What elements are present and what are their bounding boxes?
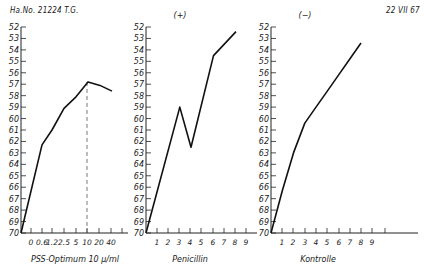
y-tick-label: 61 <box>9 126 19 135</box>
x-tick-label: 7 <box>348 238 353 247</box>
y-tick-label: 64 <box>134 160 144 169</box>
y-tick-label: 67 <box>259 195 270 204</box>
y-tick-label: 59 <box>259 103 269 112</box>
x-tick-label: 3 <box>177 238 182 247</box>
y-tick-label: 69 <box>9 218 19 227</box>
data-line <box>21 82 112 233</box>
chart-panel-3: 5253545556575859606162636465666768697012… <box>259 11 418 264</box>
y-tick-label: 70 <box>9 229 19 238</box>
y-tick-label: 57 <box>134 80 145 89</box>
y-tick-label: 62 <box>9 137 19 146</box>
y-tick-label: 63 <box>134 149 144 158</box>
y-tick-label: 53 <box>134 34 144 43</box>
x-tick-label: 0 <box>29 238 34 247</box>
y-tick-label: 61 <box>134 126 144 135</box>
y-tick-label: 70 <box>259 229 269 238</box>
y-tick-label: 59 <box>9 103 19 112</box>
y-tick-label: 54 <box>259 46 269 55</box>
x-tick-label: 5 <box>199 238 204 247</box>
y-tick-label: 57 <box>9 80 20 89</box>
y-tick-label: 67 <box>9 195 20 204</box>
y-tick-label: 53 <box>9 34 19 43</box>
y-tick-label: 56 <box>9 69 19 78</box>
y-tick-label: 69 <box>259 218 269 227</box>
x-tick-label: 7 <box>222 238 227 247</box>
x-tick-label: 5 <box>325 238 330 247</box>
x-tick-label: 5 <box>74 238 79 247</box>
x-tick-label: 40 <box>106 238 116 247</box>
y-tick-label: 58 <box>134 92 144 101</box>
y-tick-label: 54 <box>134 46 144 55</box>
y-tick-label: 64 <box>259 160 269 169</box>
y-tick-label: 60 <box>9 115 19 124</box>
y-tick-label: 62 <box>259 137 269 146</box>
data-line <box>146 32 236 233</box>
y-tick-label: 69 <box>134 218 144 227</box>
x-tick-label: 6 <box>337 238 342 247</box>
y-tick-label: 57 <box>259 80 270 89</box>
x-tick-label: 9 <box>370 238 375 247</box>
y-tick-label: 63 <box>9 149 19 158</box>
y-tick-label: 65 <box>9 172 19 181</box>
chart-panel-1: 5253545556575859606162636465666768697000… <box>9 23 128 264</box>
y-tick-label: 61 <box>259 126 269 135</box>
data-line <box>271 43 361 233</box>
y-tick-label: 66 <box>134 183 144 192</box>
x-tick-label: 8 <box>233 238 238 247</box>
x-axis-label: PSS-Optimum 10 μ/ml <box>31 255 120 264</box>
x-tick-label: 3 <box>303 238 308 247</box>
y-tick-label: 68 <box>134 206 144 215</box>
y-tick-label: 58 <box>259 92 269 101</box>
y-tick-label: 62 <box>134 137 144 146</box>
y-tick-label: 56 <box>259 69 269 78</box>
x-tick-label: 1.2 <box>46 238 58 247</box>
y-tick-label: 52 <box>259 23 269 32</box>
y-tick-label: 65 <box>259 172 269 181</box>
y-tick-label: 55 <box>9 57 19 66</box>
y-tick-label: 59 <box>134 103 144 112</box>
x-axis-label: Penicillin <box>172 255 207 264</box>
y-tick-label: 66 <box>259 183 269 192</box>
x-tick-label: 20 <box>94 238 104 247</box>
y-tick-label: 55 <box>259 57 269 66</box>
chart-area: 5253545556575859606162636465666768697000… <box>0 0 424 270</box>
x-tick-label: 2.5 <box>58 238 70 247</box>
x-tick-label: 1 <box>155 238 160 247</box>
y-tick-label: 60 <box>134 115 144 124</box>
x-tick-label: 6 <box>211 238 216 247</box>
y-tick-label: 55 <box>134 57 144 66</box>
y-tick-label: 64 <box>9 160 19 169</box>
y-tick-label: 68 <box>9 206 19 215</box>
x-tick-label: 4 <box>314 238 319 247</box>
y-tick-label: 60 <box>259 115 269 124</box>
y-tick-label: 56 <box>134 69 144 78</box>
y-tick-label: 58 <box>9 92 19 101</box>
x-tick-label: 1 <box>280 238 285 247</box>
x-tick-label: 10 <box>82 238 92 247</box>
x-tick-label: 2 <box>166 238 171 247</box>
y-tick-label: 53 <box>259 34 269 43</box>
panel-label: (−) <box>299 11 312 20</box>
y-tick-label: 52 <box>9 23 19 32</box>
y-tick-label: 70 <box>134 229 144 238</box>
y-tick-label: 66 <box>9 183 19 192</box>
x-axis-label: Kontrolle <box>300 255 336 264</box>
y-tick-label: 65 <box>134 172 144 181</box>
y-tick-label: 67 <box>134 195 145 204</box>
x-tick-label: 2 <box>291 238 296 247</box>
x-tick-label: 4 <box>188 238 193 247</box>
chart-panel-2: 5253545556575859606162636465666768697012… <box>134 11 257 264</box>
x-tick-label: 8 <box>359 238 364 247</box>
y-tick-label: 52 <box>134 23 144 32</box>
panel-label: (+) <box>174 11 187 20</box>
y-tick-label: 68 <box>259 206 269 215</box>
x-tick-label: 9 <box>244 238 249 247</box>
y-tick-label: 63 <box>259 149 269 158</box>
y-tick-label: 54 <box>9 46 19 55</box>
